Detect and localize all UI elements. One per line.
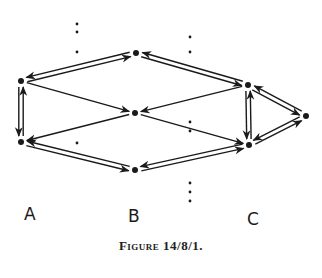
guide-dot (76, 31, 79, 34)
guide-dot (189, 191, 192, 194)
node-b2 (132, 110, 138, 116)
edge-arrow-forward (253, 117, 299, 141)
network-diagram (0, 0, 322, 278)
label-a: A (24, 204, 36, 224)
edge-arrow-back (26, 52, 129, 77)
edge-arrow-back (140, 144, 242, 166)
edge-arrow (27, 114, 129, 140)
edge-arrow-back (142, 53, 242, 82)
edge-arrow-back (27, 141, 129, 166)
guide-dot (189, 51, 192, 54)
guide-dot (189, 36, 192, 39)
edge-arrow-back (254, 86, 301, 111)
edge-arrow-back (250, 91, 251, 139)
edge-arrow-forward (141, 57, 241, 86)
edge-arrow-forward (27, 57, 130, 82)
node-b3 (132, 167, 138, 173)
edge-arrow-forward (252, 90, 299, 115)
edge-arrow (141, 115, 243, 144)
guide-dot (76, 51, 79, 54)
node-a2 (18, 139, 24, 145)
edge-arrow (141, 86, 242, 111)
guide-dot (189, 130, 192, 133)
edge-arrow-forward (141, 148, 243, 170)
node-c1 (245, 82, 251, 88)
node-b1 (133, 50, 139, 56)
node-c2 (246, 142, 252, 148)
label-c: C (247, 209, 259, 229)
edge-arrow (27, 83, 129, 112)
guide-dot (189, 200, 192, 203)
guide-dot (76, 142, 79, 145)
edges (19, 52, 302, 171)
figure-caption: Figure 14/8/1. (0, 238, 322, 254)
guide-dot (189, 121, 192, 124)
node-a1 (18, 78, 24, 84)
edge-arrow-back (255, 121, 301, 145)
edge-arrow-forward (246, 91, 247, 139)
edge-arrow-forward (26, 146, 128, 171)
label-b: B (128, 206, 140, 226)
guide-dot (76, 23, 79, 26)
node-c3 (303, 113, 309, 119)
guide-dot (189, 182, 192, 185)
